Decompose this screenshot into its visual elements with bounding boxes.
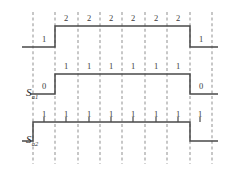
waveform-trace-sa2 bbox=[22, 122, 218, 141]
trace-label-subscript-trace-sa2: a2 bbox=[32, 139, 39, 146]
gridlines-group bbox=[33, 12, 212, 164]
waveform-trace-top bbox=[22, 26, 218, 47]
timing-diagram-figure: 2222221111111100Sa111111111Sa2 bbox=[0, 0, 228, 172]
waveform-trace-sa1 bbox=[30, 74, 218, 94]
waveforms-group bbox=[22, 26, 218, 141]
trace-label-base-trace-sa2: S bbox=[26, 133, 32, 145]
trace-label-trace-sa2: Sa2 bbox=[26, 134, 38, 145]
trace-label-base-trace-sa1: S bbox=[26, 86, 32, 98]
trace-label-subscript-trace-sa1: a1 bbox=[32, 92, 39, 99]
trace-label-trace-sa1: Sa1 bbox=[26, 87, 38, 98]
